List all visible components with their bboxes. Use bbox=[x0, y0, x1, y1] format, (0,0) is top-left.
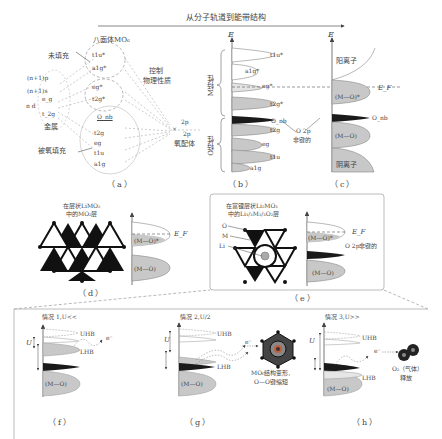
g-lhb: LHB bbox=[217, 364, 231, 370]
o-character-label: O特性 bbox=[208, 136, 215, 156]
band-a1g: a1g bbox=[250, 165, 261, 171]
e-mo-bond: (M—O) bbox=[312, 270, 334, 276]
g-mo-bond: (M—O) bbox=[181, 381, 203, 387]
band-t1u-star: t1u* bbox=[270, 52, 283, 58]
h-u: U bbox=[309, 338, 315, 345]
f-case: 情况 1,U<< bbox=[42, 314, 77, 320]
band-t2g-star: t2g* bbox=[270, 101, 283, 107]
metal-ns: (n+1)s bbox=[27, 88, 47, 94]
f-u: U bbox=[26, 340, 32, 347]
g-result-2: O—O键缩短 bbox=[254, 379, 288, 385]
e-caption-1: 在富锂层状Li₂MO₃ bbox=[226, 203, 278, 209]
d-mo-antibond: (M—O)* bbox=[134, 238, 159, 244]
atom-m-label: M bbox=[222, 233, 228, 239]
h-electron: e⁻ bbox=[374, 348, 381, 354]
panel-b-graphic bbox=[217, 38, 400, 172]
level-a1g-star: a1g* bbox=[92, 65, 106, 71]
m-character-label: M特性 bbox=[208, 75, 215, 96]
level-eg: eg bbox=[94, 140, 101, 146]
metal-eg: e_g bbox=[42, 96, 52, 102]
o-nb-label: O_nb bbox=[97, 114, 113, 120]
e-o2p-nonbond: O 2p非键的 bbox=[345, 243, 377, 249]
metal-t2g: t_2g bbox=[42, 111, 55, 117]
metal-np: (n+1)p bbox=[27, 75, 48, 81]
atom-o-label: O bbox=[222, 223, 227, 229]
g-uhb: UHB bbox=[217, 331, 232, 337]
level-t1u-star: t1u* bbox=[92, 52, 105, 58]
panel-g-label: （g） bbox=[185, 416, 212, 427]
g-u: U bbox=[164, 337, 170, 344]
band-t1u: t1u bbox=[270, 154, 280, 160]
e-fermi: E_F bbox=[352, 229, 365, 236]
o2p-label: O 2p bbox=[296, 128, 310, 134]
panel-e-label: （e） bbox=[290, 292, 317, 303]
oxygen-filled-label: 被氧填充 bbox=[38, 148, 66, 155]
band-t2g: t2g bbox=[270, 127, 280, 133]
panel-f-label: （f） bbox=[48, 416, 73, 427]
control-label-1: 控制 bbox=[149, 68, 163, 75]
panel-a-label: （a） bbox=[107, 178, 134, 189]
e-caption-2: 中的Li₁/₃M₂/₃O₂层 bbox=[228, 211, 279, 217]
band-eg-star: eg* bbox=[262, 83, 272, 89]
mo-antibond-label: (M—O)* bbox=[335, 94, 360, 100]
nonbond-label: 非键的 bbox=[293, 137, 311, 143]
panel-d-bands bbox=[132, 213, 172, 285]
level-t2g: t2g bbox=[94, 130, 104, 136]
band-o-nb: O_nb bbox=[271, 118, 287, 124]
e-mo-antibond: (M—O)* bbox=[308, 235, 333, 241]
h-case: 情况 3,U>> bbox=[325, 314, 360, 320]
fermi-label: E_F bbox=[378, 85, 391, 92]
energy-axis-label-c: E bbox=[328, 31, 334, 39]
d-caption-2: 中的MO₂层 bbox=[66, 211, 97, 217]
d-mo-bond: (M—O) bbox=[134, 266, 156, 272]
level-t2g-star: t2g* bbox=[92, 96, 105, 102]
h-mo-bond: (M—O) bbox=[327, 386, 349, 392]
g-result-1: MO₆结构变形, bbox=[251, 370, 290, 376]
h-uhb: UHB bbox=[362, 335, 377, 341]
h-result-1: O₂（气体） bbox=[392, 366, 423, 372]
h-result-2: 释放 bbox=[400, 375, 412, 381]
panel-d-lattice bbox=[38, 221, 126, 283]
g-electron: e⁻ bbox=[245, 339, 252, 345]
ligand-2p-lower: 2p bbox=[183, 131, 191, 137]
unfilled-label: 未填充 bbox=[48, 53, 69, 60]
ligand-label: 氧配体 bbox=[174, 141, 195, 148]
f-electron: e⁻ bbox=[106, 335, 113, 341]
octahedral-title: 八面体MO₆ bbox=[93, 37, 130, 44]
g-case: 情况 2,U/2 bbox=[180, 314, 211, 320]
band-a1g-star: a1g* bbox=[245, 68, 259, 74]
anion-label: 阴离子 bbox=[336, 162, 357, 169]
band-eg: eg bbox=[262, 141, 269, 147]
metal-label: 金属 bbox=[44, 124, 58, 131]
panel-b-label: （b） bbox=[228, 178, 255, 189]
h-lhb: LHB bbox=[362, 375, 376, 381]
f-lhb: LHB bbox=[80, 349, 94, 355]
d-fermi: E_F bbox=[174, 231, 187, 238]
d-caption-1: 在层状LiMO₂ bbox=[63, 203, 100, 209]
level-t1u: t1u bbox=[94, 150, 104, 156]
panel-h-label: （h） bbox=[352, 416, 379, 427]
panel-c-label: （c） bbox=[330, 178, 356, 189]
ligand-2p-upper: 2p bbox=[181, 119, 189, 125]
panel-e-lattice bbox=[228, 226, 297, 284]
level-eg-star: eg* bbox=[92, 84, 102, 90]
f-uhb: UHB bbox=[80, 331, 95, 337]
metal-nd: n d bbox=[26, 103, 36, 109]
cation-label: 阳离子 bbox=[336, 58, 357, 65]
mo-bond-label: (M—O) bbox=[335, 133, 357, 139]
panel-d-label: （d） bbox=[78, 287, 105, 298]
f-mo-bond: (M—O) bbox=[45, 381, 67, 387]
energy-axis-label: E bbox=[228, 31, 234, 39]
zoom-lines bbox=[14, 290, 428, 309]
svg-text:×: × bbox=[172, 125, 177, 132]
header-title: 从分子轨道到能带结构 bbox=[186, 14, 266, 22]
level-a1g: a1g bbox=[94, 161, 105, 167]
control-label-2: 物理性质 bbox=[143, 78, 171, 85]
o-nb-label-c: O_nb bbox=[372, 115, 388, 121]
atom-li-label: Li bbox=[219, 243, 225, 249]
